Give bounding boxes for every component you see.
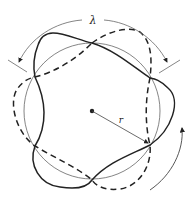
wavelength-arc-left [19, 20, 82, 62]
standing-wave-ring-diagram: λ r [0, 0, 191, 201]
wavelength-tick-right [159, 60, 180, 73]
wavelength-arc-right [104, 20, 167, 62]
wavelength-label: λ [89, 14, 97, 27]
solid-wave-curve [33, 33, 174, 188]
wavelength-tick-left [8, 60, 27, 72]
radius-label: r [119, 115, 124, 125]
